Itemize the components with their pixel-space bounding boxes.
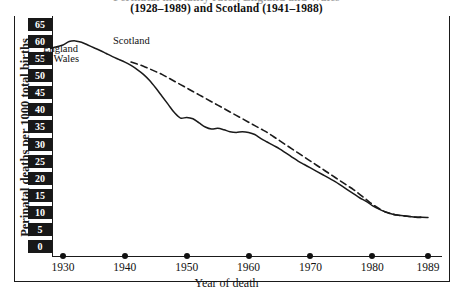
series-line-scotland (131, 62, 422, 217)
series-label-scotland: Scotland (113, 36, 150, 46)
chart-figure: Perinatal mortality rates, England and W… (0, 0, 453, 296)
series-label-england-line2: & Wales (43, 54, 79, 64)
series-line-england-wales (51, 41, 428, 218)
series-label-england-wales: England & Wales (43, 44, 79, 63)
